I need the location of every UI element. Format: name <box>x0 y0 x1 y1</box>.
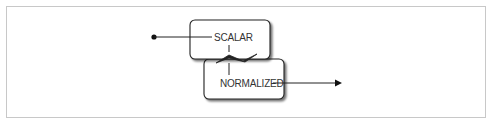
arrow-head-icon <box>335 80 342 87</box>
scalar-label: SCALAR <box>214 32 253 43</box>
diagram-canvas: SCALAR NORMALIZED <box>0 0 493 126</box>
